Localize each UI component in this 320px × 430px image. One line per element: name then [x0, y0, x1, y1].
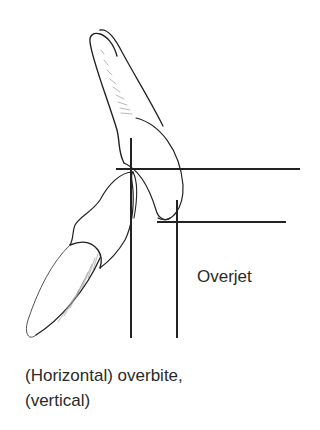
reference-lines [116, 138, 300, 338]
lower-incisor [26, 172, 136, 337]
overjet-label: Overjet [197, 268, 252, 285]
caption-line-1: (Horizontal) overbite, [25, 367, 183, 384]
caption-line-2: (vertical) [25, 392, 90, 409]
